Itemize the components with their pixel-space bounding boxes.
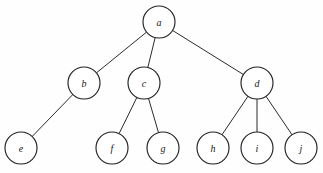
nodes-layer: abcdefghij <box>5 6 317 164</box>
tree-node-i[interactable]: i <box>241 132 273 164</box>
tree-edge-c-g <box>148 98 158 132</box>
tree-node-h[interactable]: h <box>197 132 229 164</box>
tree-node-b[interactable]: b <box>68 67 100 99</box>
tree-edge-d-h <box>222 96 248 135</box>
tree-node-j[interactable]: j <box>285 132 317 164</box>
tree-node-e[interactable]: e <box>5 132 37 164</box>
tree-node-label-c: c <box>142 78 147 89</box>
tree-edge-d-j <box>266 96 292 135</box>
tree-node-d[interactable]: d <box>241 67 273 99</box>
tree-canvas: abcdefghij <box>0 0 323 173</box>
tree-node-label-g: g <box>161 143 166 154</box>
tree-node-g[interactable]: g <box>147 132 179 164</box>
tree-edge-c-f <box>119 97 137 133</box>
tree-node-label-b: b <box>82 78 87 89</box>
tree-node-label-h: h <box>211 143 216 154</box>
tree-edge-a-c <box>148 38 155 68</box>
tree-node-label-i: i <box>256 143 259 154</box>
tree-node-c[interactable]: c <box>128 67 160 99</box>
tree-edge-b-e <box>32 94 73 136</box>
tree-node-a[interactable]: a <box>143 6 175 38</box>
tree-edge-a-d <box>173 30 244 74</box>
tree-node-f[interactable]: f <box>96 132 128 164</box>
tree-diagram: abcdefghij <box>0 0 323 173</box>
tree-node-label-a: a <box>157 17 162 28</box>
tree-edge-a-b <box>96 32 146 73</box>
tree-node-label-e: e <box>19 143 24 154</box>
